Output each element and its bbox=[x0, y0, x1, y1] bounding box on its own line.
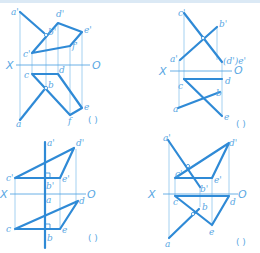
label-b: b bbox=[48, 80, 54, 90]
line-a1b1 bbox=[168, 140, 200, 187]
panel-3: a' d' c' b' e' X O a d c b e ( ) bbox=[0, 138, 98, 248]
label-f: f bbox=[67, 116, 73, 126]
label-c: c bbox=[178, 81, 183, 91]
intersect-mark bbox=[201, 36, 204, 39]
axis-label-x: X bbox=[147, 188, 156, 201]
axis-label-x: X bbox=[0, 188, 8, 201]
axis-label-o: O bbox=[234, 64, 243, 77]
label-f1: f' bbox=[71, 41, 78, 51]
label-a: a bbox=[46, 195, 51, 205]
answer-bracket[interactable]: ( ) bbox=[236, 119, 246, 129]
intersect-mark bbox=[186, 164, 189, 167]
axis-label-x: X bbox=[5, 59, 14, 72]
label-a: a bbox=[165, 239, 170, 249]
label-d: d bbox=[225, 76, 231, 86]
label-a1: a' bbox=[11, 7, 19, 17]
label-c1: c' bbox=[175, 169, 183, 179]
label-c1: c' bbox=[6, 173, 14, 183]
intersect-mark bbox=[191, 212, 194, 215]
label-c: c bbox=[6, 224, 11, 234]
label-b1: b' bbox=[200, 184, 208, 194]
label-a1: a' bbox=[163, 133, 171, 143]
label-d1: d' bbox=[229, 138, 237, 148]
answer-bracket[interactable]: ( ) bbox=[236, 237, 246, 247]
line-a1b1 bbox=[20, 12, 44, 33]
axis-label-o: O bbox=[87, 188, 96, 201]
label-c: c bbox=[173, 197, 178, 207]
axis-label-o: O bbox=[92, 59, 101, 72]
label-e1: e' bbox=[84, 25, 92, 35]
line-ab bbox=[20, 90, 44, 120]
label-a1: a' bbox=[47, 138, 55, 148]
label-e1: e' bbox=[62, 174, 70, 184]
answer-bracket[interactable]: ( ) bbox=[88, 115, 98, 125]
label-d1: d' bbox=[76, 138, 84, 148]
label-b1: b' bbox=[219, 19, 227, 29]
answer-bracket[interactable]: ( ) bbox=[88, 233, 98, 243]
label-b: b bbox=[47, 233, 53, 243]
label-e: e bbox=[209, 227, 214, 237]
label-e: e bbox=[62, 225, 67, 235]
projection-diagrams: a' d' e' b' f' c' X O c d b e f a ( ) c'… bbox=[0, 0, 260, 253]
panel-4: a' d' c' e' b' X O c d b e a ( ) bbox=[147, 133, 247, 249]
label-e1: e' bbox=[214, 175, 222, 185]
label-c: c bbox=[24, 70, 29, 80]
label-d1: d' bbox=[56, 9, 64, 19]
label-d: d bbox=[79, 196, 85, 206]
label-a: a bbox=[16, 119, 21, 129]
label-c1: c' bbox=[178, 8, 186, 18]
label-e: e bbox=[224, 112, 229, 122]
label-b1: b' bbox=[48, 27, 56, 37]
label-c1: c' bbox=[23, 49, 31, 59]
label-a1: a' bbox=[170, 54, 178, 64]
axis-label-x: X bbox=[158, 65, 167, 78]
label-d: d bbox=[230, 197, 236, 207]
panel-2: c' b' a' (d')e' X O c d b a e ( ) bbox=[158, 8, 246, 129]
label-d: d bbox=[59, 65, 65, 75]
label-b: b bbox=[216, 88, 222, 98]
label-e: e bbox=[84, 102, 89, 112]
label-b1: b' bbox=[46, 181, 54, 191]
panel-1: a' d' e' b' f' c' X O c d b e f a ( ) bbox=[5, 7, 101, 129]
label-b: b bbox=[202, 202, 208, 212]
plane-cde bbox=[15, 201, 78, 229]
axis-label-o: O bbox=[238, 188, 247, 201]
label-a: a bbox=[173, 104, 178, 114]
